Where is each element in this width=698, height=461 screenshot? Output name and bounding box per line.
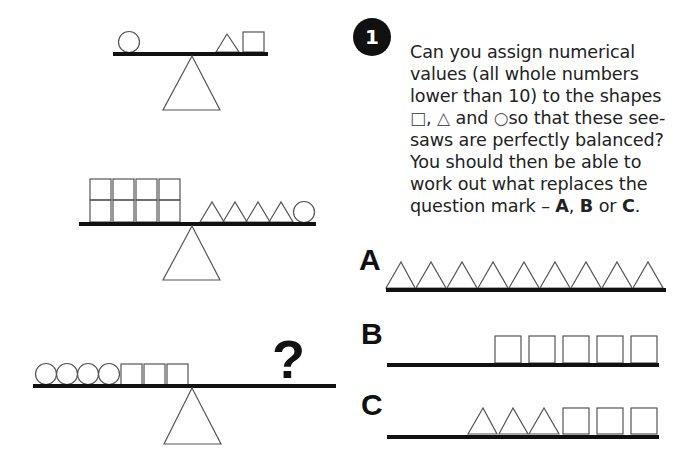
square-shape (159, 179, 180, 200)
option-b-label[interactable]: B (361, 317, 383, 351)
square-shape (90, 200, 111, 222)
square-shape (121, 364, 142, 385)
question-text: Can you assign numerical values (all who… (410, 41, 680, 217)
seesaw-1 (113, 32, 268, 111)
square-shape (136, 200, 157, 222)
triangle-glyph-icon: △ (437, 108, 450, 128)
option-c-label[interactable]: C (361, 388, 383, 422)
option-a-shapes (386, 262, 666, 290)
seesaw-2 (79, 179, 316, 280)
triangle-shape (246, 202, 270, 222)
triangle-shape (223, 202, 247, 222)
puzzle-number-badge: 1 (353, 18, 391, 56)
circle-shape (294, 202, 315, 223)
circle-shape (119, 32, 140, 53)
fulcrum-icon (164, 388, 221, 444)
square-glyph-icon: □ (410, 108, 426, 128)
square-shape (144, 364, 165, 385)
square-shape (90, 179, 111, 200)
square-shape (159, 200, 180, 222)
fulcrum-icon (163, 226, 220, 280)
circle-shape (99, 364, 120, 385)
square-shape (136, 179, 157, 200)
triangle-shape (216, 34, 239, 52)
square-shape (243, 32, 264, 52)
triangle-shape (269, 202, 293, 222)
question-mark: ? (272, 332, 305, 386)
option-c-shapes (387, 408, 659, 437)
option-b-shapes (387, 336, 659, 365)
triangle-shape (200, 202, 224, 222)
circle-shape (57, 364, 78, 385)
option-a-label[interactable]: A (359, 243, 381, 277)
circle-shape (78, 364, 99, 385)
square-shape (113, 200, 134, 222)
fulcrum-icon (163, 56, 220, 110)
square-shape (167, 364, 188, 385)
square-shape (113, 179, 134, 200)
circle-glyph-icon: ○ (494, 108, 509, 128)
circle-shape (36, 364, 57, 385)
